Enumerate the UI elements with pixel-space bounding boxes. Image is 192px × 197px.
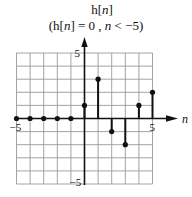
x-tick-label-max: 5	[150, 121, 156, 133]
stem-marker	[41, 116, 46, 121]
stem-marker	[68, 116, 73, 121]
stem-marker	[150, 90, 155, 95]
y-tick-label-min: −5	[70, 176, 82, 188]
x-axis-arrow-icon	[166, 115, 178, 121]
axes: n	[16, 37, 189, 185]
stem-marker	[123, 142, 128, 147]
stem-marker	[96, 77, 101, 82]
stem-marker	[82, 103, 87, 108]
x-tick-label-min: −5	[10, 121, 22, 133]
y-axis-arrow-icon	[81, 37, 87, 47]
stem-marker	[55, 116, 60, 121]
stem-marker	[109, 129, 114, 134]
stem-plot: n −555−5	[0, 0, 192, 197]
stem-marker	[28, 116, 33, 121]
y-tick-label-max: 5	[75, 47, 81, 59]
x-axis-label: n	[182, 112, 188, 126]
stem-marker	[136, 103, 141, 108]
